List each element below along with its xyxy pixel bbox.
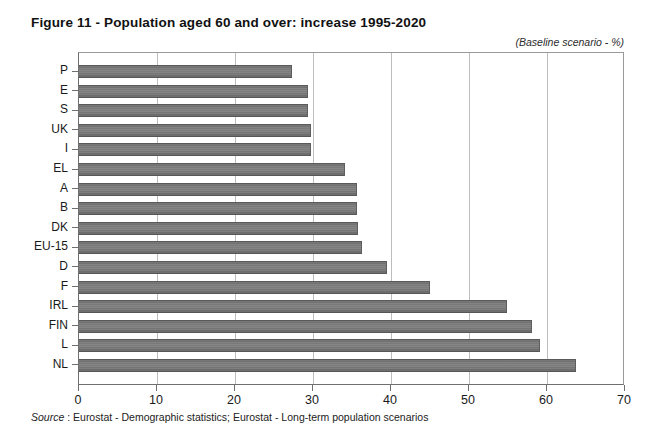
x-axis: 010203040506070	[0, 385, 657, 411]
bar-FIN	[79, 320, 532, 333]
bar-F	[79, 281, 430, 294]
bar-fill	[79, 104, 308, 117]
bar-fill	[79, 320, 532, 333]
bar-fill	[79, 124, 311, 137]
y-axis-labels: PESUKIELABDKEU-15DFIRLFINLNL	[0, 52, 78, 385]
y-axis-label-FIN: FIN	[49, 319, 68, 332]
bar-fill	[79, 359, 576, 372]
x-axis-label-30: 30	[305, 393, 319, 407]
bar-DK	[79, 222, 358, 235]
bar-fill	[79, 300, 507, 313]
bar-fill	[79, 261, 387, 274]
y-axis-label-I: I	[65, 142, 68, 155]
x-axis-label-20: 20	[227, 393, 241, 407]
x-axis-label-0: 0	[75, 393, 82, 407]
bar-fill	[79, 143, 311, 156]
bar-E	[79, 85, 308, 98]
chart-subtitle: (Baseline scenario - %)	[515, 36, 624, 48]
y-axis-label-B: B	[60, 201, 68, 214]
x-axis-tick-70	[624, 385, 625, 391]
bar-P	[79, 65, 292, 78]
y-axis-label-D: D	[59, 260, 68, 273]
x-axis-label-60: 60	[539, 393, 553, 407]
x-axis-tick-0	[78, 385, 79, 391]
y-axis-label-EU-15: EU-15	[34, 240, 68, 253]
bar-fill	[79, 222, 358, 235]
x-axis-tick-30	[312, 385, 313, 391]
y-axis-label-EL: EL	[53, 162, 68, 175]
x-axis-tick-40	[390, 385, 391, 391]
x-axis-tick-10	[156, 385, 157, 391]
source-note: Source : Eurostat - Demographic statisti…	[31, 411, 428, 423]
bar-fill	[79, 281, 430, 294]
x-axis-tick-20	[234, 385, 235, 391]
bar-IRL	[79, 300, 507, 313]
source-label: Source	[31, 411, 64, 423]
x-axis-label-10: 10	[149, 393, 163, 407]
page-title: Figure 11 - Population aged 60 and over:…	[31, 15, 426, 30]
bar-fill	[79, 339, 540, 352]
bar-UK	[79, 124, 311, 137]
bar-fill	[79, 85, 308, 98]
x-axis-label-40: 40	[383, 393, 397, 407]
bar-fill	[79, 183, 357, 196]
x-axis-label-50: 50	[461, 393, 475, 407]
bar-B	[79, 202, 357, 215]
y-axis-label-L: L	[61, 338, 68, 351]
bar-EU-15	[79, 241, 362, 254]
y-axis-label-E: E	[60, 84, 68, 97]
bar-fill	[79, 65, 292, 78]
y-axis-label-NL: NL	[53, 358, 68, 371]
y-axis-label-DK: DK	[51, 221, 68, 234]
x-axis-label-70: 70	[617, 393, 631, 407]
x-axis-tick-60	[546, 385, 547, 391]
bar-fill	[79, 202, 357, 215]
bar-EL	[79, 163, 345, 176]
chart-plot-area	[78, 52, 624, 385]
x-axis-tick-50	[468, 385, 469, 391]
bar-L	[79, 339, 540, 352]
source-text: : Eurostat - Demographic statistics; Eur…	[64, 411, 428, 423]
bar-fill	[79, 241, 362, 254]
bar-fill	[79, 163, 345, 176]
y-axis-label-P: P	[60, 64, 68, 77]
y-axis-label-IRL: IRL	[49, 299, 68, 312]
bar-NL	[79, 359, 576, 372]
y-axis-label-A: A	[60, 182, 68, 195]
y-axis-label-S: S	[60, 103, 68, 116]
y-axis-label-UK: UK	[51, 123, 68, 136]
bar-S	[79, 104, 308, 117]
bar-A	[79, 183, 357, 196]
y-axis-label-F: F	[61, 280, 68, 293]
bar-series	[79, 53, 623, 384]
bar-I	[79, 143, 311, 156]
bar-D	[79, 261, 387, 274]
